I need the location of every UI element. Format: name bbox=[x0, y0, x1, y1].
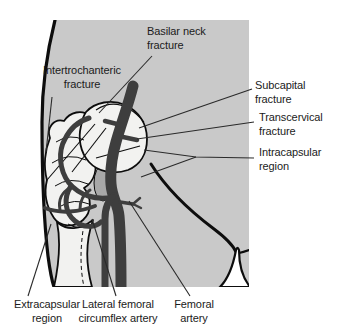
label-text: fracture bbox=[259, 125, 323, 139]
label-basilar-neck-fracture: Basilar neck fracture bbox=[147, 25, 206, 52]
hip-fracture-figure: Basilar neck fracture Intertrochanteric … bbox=[0, 0, 343, 335]
label-text: region bbox=[259, 160, 321, 174]
label-text: Intertrochanteric bbox=[30, 64, 134, 78]
femur-shaft bbox=[54, 220, 93, 287]
label-text: circumflex artery bbox=[72, 312, 164, 326]
label-text: fracture bbox=[30, 78, 134, 92]
label-femoral-artery: Femoral artery bbox=[167, 298, 221, 325]
label-text: Transcervical bbox=[259, 111, 323, 125]
label-text: artery bbox=[167, 312, 221, 326]
label-text: Lateral femoral bbox=[72, 298, 164, 312]
label-text: Basilar neck bbox=[147, 25, 206, 39]
label-subcapital-fracture: Subcapital fracture bbox=[255, 79, 305, 106]
label-text: fracture bbox=[255, 93, 305, 107]
label-text: Femoral bbox=[167, 298, 221, 312]
artery-stub-right-shape bbox=[123, 137, 137, 140]
label-intracapsular-region: Intracapsular region bbox=[259, 146, 321, 173]
label-text: Subcapital bbox=[255, 79, 305, 93]
label-intertrochanteric-fracture: Intertrochanteric fracture bbox=[30, 64, 134, 91]
label-transcervical-fracture: Transcervical fracture bbox=[259, 111, 323, 138]
label-text: Intracapsular bbox=[259, 146, 321, 160]
label-text: fracture bbox=[147, 39, 206, 53]
label-lateral-femoral-circumflex-artery: Lateral femoral circumflex artery bbox=[72, 298, 164, 325]
